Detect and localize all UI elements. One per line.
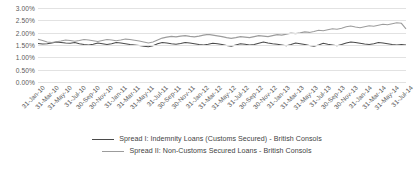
- legend-label: Spread I: Indemnity Loans (Customs Secur…: [119, 135, 322, 143]
- y-tick-label: 1.00%: [16, 54, 35, 61]
- legend: Spread I: Indemnity Loans (Customs Secur…: [0, 132, 414, 169]
- y-axis: 0.00%0.50%1.00%1.50%2.00%2.50%3.00%: [0, 0, 38, 95]
- gridline: [38, 82, 406, 83]
- y-tick-label: 2.00%: [16, 29, 35, 36]
- plot-wrapper: 0.00%0.50%1.00%1.50%2.00%2.50%3.00% 31-J…: [0, 0, 414, 95]
- y-tick-label: 0.50%: [16, 66, 35, 73]
- gridline: [38, 33, 406, 34]
- legend-item[interactable]: Spread II: Non-Customs Secured Loans - B…: [102, 147, 311, 155]
- legend-item[interactable]: Spread I: Indemnity Loans (Customs Secur…: [92, 135, 322, 143]
- plot-area: [38, 8, 406, 82]
- gridline: [38, 70, 406, 71]
- y-tick-label: 1.50%: [16, 42, 35, 49]
- gridline: [38, 45, 406, 46]
- gridline: [38, 8, 406, 9]
- y-tick-label: 0.00%: [16, 79, 35, 86]
- legend-line-swatch-icon: [92, 139, 114, 140]
- y-tick-label: 3.00%: [16, 5, 35, 12]
- x-axis: 31-Jan-1031-Mar-1031-May-1031-Jul-1030-S…: [38, 84, 406, 132]
- legend-label: Spread II: Non-Customs Secured Loans - B…: [129, 147, 311, 155]
- legend-line-swatch-icon: [102, 151, 124, 152]
- spread-line-chart: 0.00%0.50%1.00%1.50%2.00%2.50%3.00% 31-J…: [0, 0, 414, 169]
- gridline: [38, 57, 406, 58]
- gridline: [38, 20, 406, 21]
- y-tick-label: 2.50%: [16, 17, 35, 24]
